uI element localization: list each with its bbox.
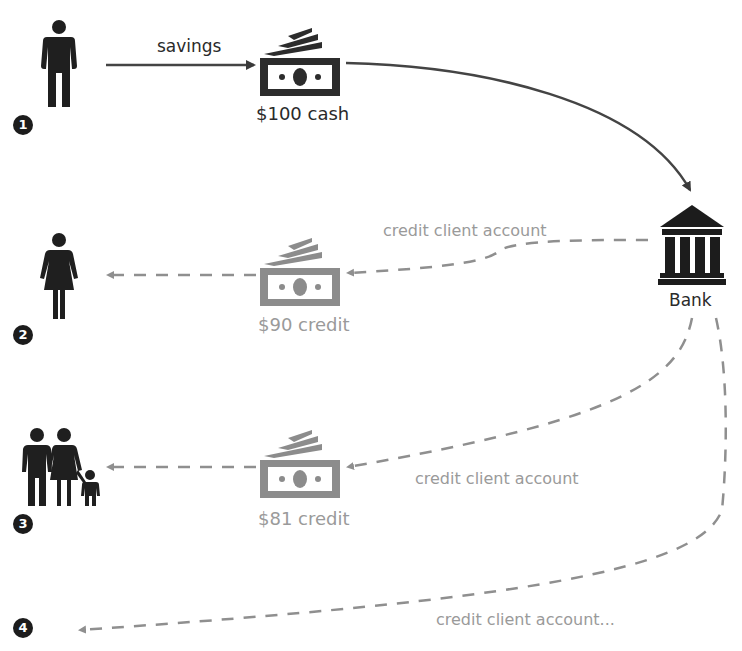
credit-client-account-label-1: credit client account xyxy=(383,221,547,240)
woman-icon xyxy=(40,233,78,319)
bank-to-credit90-arrow xyxy=(348,240,648,273)
step-badge-4: 4 xyxy=(13,618,33,638)
bank-label: Bank xyxy=(669,290,712,310)
step-badge-2: 2 xyxy=(13,325,33,345)
cash-amount-label: $100 cash xyxy=(256,103,349,124)
family-icon xyxy=(22,428,100,506)
flow-diagram xyxy=(0,0,742,651)
step-badge-1: 1 xyxy=(13,115,33,135)
bank-to-step4-arrow xyxy=(80,318,726,630)
cash-to-bank-arrow xyxy=(346,63,690,190)
banknote-icon xyxy=(260,238,340,306)
credit90-amount-label: $90 credit xyxy=(258,314,350,335)
bank-to-credit81-arrow xyxy=(348,318,692,467)
banknote-icon xyxy=(260,430,340,498)
bank-icon xyxy=(658,205,726,285)
banknote-icon xyxy=(260,28,340,96)
credit-client-account-label-2: credit client account xyxy=(415,469,579,488)
man-icon xyxy=(41,20,77,107)
savings-label: savings xyxy=(157,36,221,56)
step-badge-3: 3 xyxy=(13,514,33,534)
credit-client-account-label-3: credit client account... xyxy=(436,610,615,629)
credit81-amount-label: $81 credit xyxy=(258,508,350,529)
